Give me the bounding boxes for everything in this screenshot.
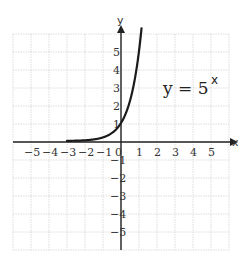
svg-text:4: 4 [113, 64, 120, 77]
equation-exponent: x [211, 73, 218, 87]
exponential-graph: −5−4−3−2−101234554321−1−2−3−4−5 x y y = … [0, 0, 250, 260]
svg-text:1: 1 [136, 146, 143, 159]
svg-text:−4: −4 [110, 208, 126, 221]
svg-text:3: 3 [113, 82, 120, 95]
svg-text:3: 3 [172, 146, 179, 159]
svg-text:−5: −5 [110, 226, 126, 239]
y-axis-label: y [117, 14, 124, 27]
x-axis-label: x [232, 136, 239, 149]
svg-text:−1: −1 [110, 154, 126, 167]
svg-text:−5: −5 [24, 146, 40, 159]
svg-text:−4: −4 [42, 146, 58, 159]
svg-text:−2: −2 [110, 172, 126, 185]
svg-text:2: 2 [154, 146, 161, 159]
svg-text:5: 5 [113, 46, 120, 59]
equation-label: y = 5 [162, 78, 208, 98]
svg-text:2: 2 [113, 100, 120, 113]
svg-text:5: 5 [208, 146, 215, 159]
svg-text:−3: −3 [60, 146, 76, 159]
svg-text:−3: −3 [110, 190, 126, 203]
svg-text:−2: −2 [78, 146, 94, 159]
svg-text:4: 4 [190, 146, 197, 159]
